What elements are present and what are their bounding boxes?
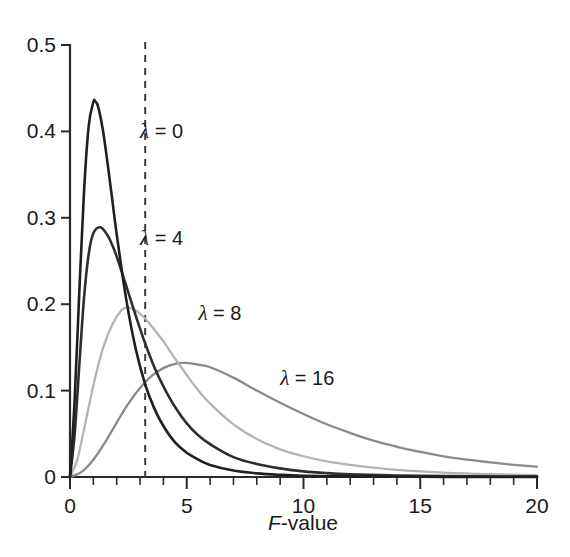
x-tick-label-1: 5 <box>181 494 193 517</box>
lambda-symbol: λ <box>279 366 289 390</box>
series-label-lambda-8: λ = 8 <box>197 301 241 325</box>
chart-figure: 00.10.20.30.40.5 05101520 λ = 0λ = 4λ = … <box>0 0 570 557</box>
lambda-value: = 4 <box>149 227 183 249</box>
lambda-value: = 16 <box>289 367 334 389</box>
y-tick-label-5: 0.5 <box>27 33 56 56</box>
lambda-value: = 0 <box>149 120 183 142</box>
y-tick-label-2: 0.2 <box>27 292 56 315</box>
x-tick-label-3: 15 <box>409 494 432 517</box>
x-tick-label-4: 20 <box>525 494 548 517</box>
lambda-symbol: λ <box>139 119 149 143</box>
y-tick-label-0: 0 <box>44 465 56 488</box>
series-label-lambda-16: λ = 16 <box>279 366 334 390</box>
lambda-symbol: λ <box>197 301 207 325</box>
noncentral-f-distribution-chart: 00.10.20.30.40.5 05101520 λ = 0λ = 4λ = … <box>0 0 570 557</box>
y-tick-label-4: 0.4 <box>27 119 57 142</box>
series-label-lambda-0: λ = 0 <box>139 119 183 143</box>
series-label-lambda-4: λ = 4 <box>139 226 183 250</box>
y-tick-label-3: 0.3 <box>27 206 56 229</box>
lambda-value: = 8 <box>208 302 242 324</box>
lambda-symbol: λ <box>139 226 149 250</box>
y-tick-label-1: 0.1 <box>27 379 56 402</box>
x-axis-title: F-value <box>268 511 338 534</box>
x-tick-label-0: 0 <box>64 494 76 517</box>
